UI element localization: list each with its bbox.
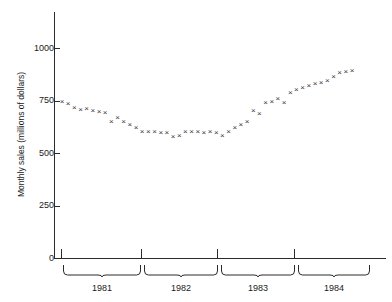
- data-point-marker: ×: [107, 118, 115, 126]
- data-point-marker: ×: [231, 124, 239, 132]
- data-point-marker: ×: [144, 128, 152, 136]
- data-point-marker: ×: [126, 121, 134, 129]
- year-brace-icon: [144, 265, 218, 277]
- y-tick-mark: [54, 258, 60, 259]
- data-point-marker: ×: [323, 77, 331, 85]
- sales-scatter-chart: Monthly sales (millions of dollars) 0250…: [0, 0, 392, 302]
- year-group: 1981: [63, 265, 141, 299]
- y-tick-label: 1000: [0, 44, 54, 53]
- y-tick-label: 500: [0, 149, 54, 158]
- data-point-marker: ×: [120, 118, 128, 126]
- data-point-marker: ×: [299, 84, 307, 92]
- y-tick-label: 250: [0, 201, 54, 210]
- y-tick-mark: [54, 206, 60, 207]
- data-point-marker: ×: [163, 129, 171, 137]
- y-tick-label-text: 500: [12, 149, 54, 158]
- data-point-marker: ×: [138, 128, 146, 136]
- data-point-marker: ×: [292, 86, 300, 94]
- y-tick-label-text: 250: [12, 201, 54, 210]
- data-point-marker: ×: [169, 133, 177, 141]
- data-point-marker: ×: [175, 132, 183, 140]
- x-tick-mark: [141, 249, 142, 258]
- data-point-marker: ×: [311, 80, 319, 88]
- year-group: 1982: [144, 265, 218, 299]
- year-group-label: 1982: [144, 283, 218, 293]
- data-point-marker: ×: [329, 73, 337, 81]
- data-point-marker: ×: [70, 104, 78, 112]
- data-point-marker: ×: [280, 99, 288, 107]
- y-tick-label: 0: [0, 254, 54, 263]
- data-point-marker: ×: [95, 108, 103, 116]
- y-tick-label-text: 1000: [12, 44, 54, 53]
- data-point-marker: ×: [64, 100, 72, 108]
- data-point-marker: ×: [218, 132, 226, 140]
- year-group: 1984: [298, 265, 370, 299]
- data-point-marker: ×: [181, 128, 189, 136]
- data-point-marker: ×: [225, 128, 233, 136]
- year-group-label: 1983: [221, 283, 295, 293]
- y-axis-title: Monthly sales (millions of dollars): [17, 50, 26, 220]
- data-point-marker: ×: [348, 67, 356, 75]
- x-tick-mark: [217, 249, 218, 258]
- data-point-marker: ×: [237, 121, 245, 129]
- data-point-marker: ×: [77, 106, 85, 114]
- year-brace-icon: [298, 265, 370, 277]
- data-point-marker: ×: [336, 69, 344, 77]
- data-point-marker: ×: [317, 79, 325, 87]
- x-tick-mark: [61, 249, 62, 258]
- data-point-marker: ×: [200, 129, 208, 137]
- data-point-marker: ×: [286, 89, 294, 97]
- data-point-marker: ×: [188, 128, 196, 136]
- y-tick-mark: [54, 153, 60, 154]
- year-group: 1983: [221, 265, 295, 299]
- data-point-marker: ×: [262, 99, 270, 107]
- data-point-marker: ×: [151, 128, 159, 136]
- y-tick-label: 750: [0, 96, 54, 105]
- data-point-marker: ×: [83, 105, 91, 113]
- y-tick-label-text: 750: [12, 96, 54, 105]
- data-point-marker: ×: [114, 114, 122, 122]
- data-point-marker: ×: [89, 107, 97, 115]
- data-point-marker: ×: [243, 118, 251, 126]
- data-point-marker: ×: [58, 98, 66, 106]
- data-point-marker: ×: [274, 95, 282, 103]
- y-tick-label-text: 0: [12, 254, 54, 263]
- y-tick-mark: [54, 48, 60, 49]
- data-point-marker: ×: [101, 109, 109, 117]
- data-point-marker: ×: [249, 107, 257, 115]
- year-group-label: 1981: [63, 283, 141, 293]
- year-brace-icon: [221, 265, 295, 277]
- data-point-marker: ×: [132, 124, 140, 132]
- x-tick-mark: [294, 249, 295, 258]
- year-group-label: 1984: [298, 283, 370, 293]
- year-brace-icon: [63, 265, 141, 277]
- data-point-marker: ×: [342, 68, 350, 76]
- data-point-marker: ×: [206, 128, 214, 136]
- y-tick-mark: [54, 101, 60, 102]
- data-point-marker: ×: [157, 129, 165, 137]
- data-point-marker: ×: [268, 98, 276, 106]
- plot-area: ××××××××××××××××××××××××××××××××××××××××…: [0, 0, 392, 302]
- data-point-marker: ×: [212, 129, 220, 137]
- data-point-marker: ×: [305, 82, 313, 90]
- y-axis-line: [54, 12, 55, 259]
- data-point-marker: ×: [255, 110, 263, 118]
- x-axis-line: [54, 258, 386, 259]
- data-point-marker: ×: [194, 128, 202, 136]
